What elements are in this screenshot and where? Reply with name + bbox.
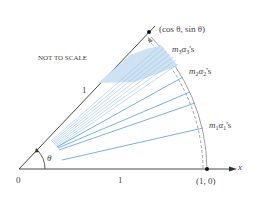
radius-label: 1 — [82, 86, 87, 95]
point-angle — [147, 30, 151, 34]
theta-arc — [37, 150, 45, 169]
point-angle-label: (cos θ, sin θ) — [159, 25, 205, 34]
x-axis-label: x — [238, 163, 242, 172]
x-axis-arrow-icon — [229, 167, 237, 172]
group-label-m3: m3α3's — [172, 45, 194, 55]
point-unit-label: (1, 0) — [196, 177, 216, 186]
group-label-m1: m1α1's — [209, 121, 231, 131]
not-to-scale-label: NOT TO SCALE — [38, 55, 87, 62]
point-unit — [205, 167, 209, 171]
group-label-m2: m2α2's — [189, 67, 211, 77]
radius-line — [19, 26, 155, 169]
unit-circle-sector-diagram — [0, 0, 256, 197]
theta-label: θ — [47, 154, 51, 163]
x-tick-label: 1 — [118, 176, 123, 185]
origin-label: 0 — [16, 176, 21, 185]
